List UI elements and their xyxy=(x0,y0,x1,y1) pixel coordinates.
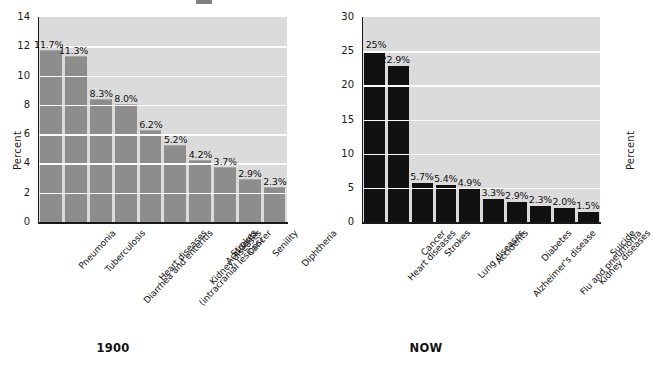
bar xyxy=(507,202,528,222)
bar-value-label: 4.9% xyxy=(458,178,481,188)
y-tick-label: 4 xyxy=(24,158,30,168)
bar-value-label: 3.3% xyxy=(481,188,504,198)
bar-value-label: 2.3% xyxy=(263,177,286,187)
bar xyxy=(189,160,211,223)
bar xyxy=(459,189,480,222)
gridline xyxy=(363,154,600,156)
bar xyxy=(214,167,236,222)
y-tick-label: 10 xyxy=(341,149,354,159)
bar-value-label: 1.5% xyxy=(576,201,599,211)
bar xyxy=(436,185,457,222)
bar xyxy=(164,145,186,222)
chart-panel-1900: Percent 02468101214 PneumoniaTuberculosi… xyxy=(0,0,310,366)
bar-value-label: 8.0% xyxy=(114,94,137,104)
bar xyxy=(483,199,504,222)
bar xyxy=(554,208,575,222)
bar-value-label: 2.3% xyxy=(529,195,552,205)
gridline xyxy=(39,193,287,195)
bar xyxy=(578,212,599,222)
chart-panel-now: Percent 051015202530 Heart diseasesCance… xyxy=(307,0,617,366)
x-axis-categories-now: Heart diseasesCancerStrokesLung diseases… xyxy=(307,0,617,140)
y-tick-label: 5 xyxy=(348,183,354,193)
y-tick-label: 2 xyxy=(24,188,30,198)
y-tick-label: 0 xyxy=(348,217,354,227)
y-tick-label: 0 xyxy=(24,217,30,227)
bar-value-label: 2.0% xyxy=(552,197,575,207)
bar-value-label: 2.9% xyxy=(238,169,261,179)
bar-value-label: 5.2% xyxy=(164,135,187,145)
cropped-title-fragment xyxy=(196,0,212,4)
x-category-label-line: Heart diseases xyxy=(157,228,209,283)
bar-value-label: 6.2% xyxy=(139,120,162,130)
x-category-label: Senility xyxy=(270,228,299,259)
y-axis-label-now: Percent xyxy=(625,131,636,170)
bar-value-label: 25% xyxy=(366,40,387,50)
bar-value-label: 22.9% xyxy=(381,55,410,65)
x-axis-line-1900 xyxy=(38,222,288,224)
bar-value-label: 3.7% xyxy=(214,157,237,167)
x-axis-line-now xyxy=(362,222,601,224)
x-category-label: Heart diseases xyxy=(157,228,209,283)
bar xyxy=(239,179,261,222)
bar-value-label: 8.3% xyxy=(90,89,113,99)
gridline xyxy=(39,163,287,165)
bar-value-label: 2.9% xyxy=(505,191,528,201)
bar-value-label: 4.2% xyxy=(189,150,212,160)
bar xyxy=(140,130,162,222)
bar-value-label: 5.4% xyxy=(434,174,457,184)
bar-value-label: 11.3% xyxy=(59,46,88,56)
chart-caption-now: NOW xyxy=(271,341,581,355)
x-category-label-line: Senility xyxy=(270,228,299,259)
bar-value-label: 5.7% xyxy=(410,172,433,182)
bar xyxy=(530,206,551,222)
chart-caption-1900: 1900 xyxy=(0,341,268,355)
